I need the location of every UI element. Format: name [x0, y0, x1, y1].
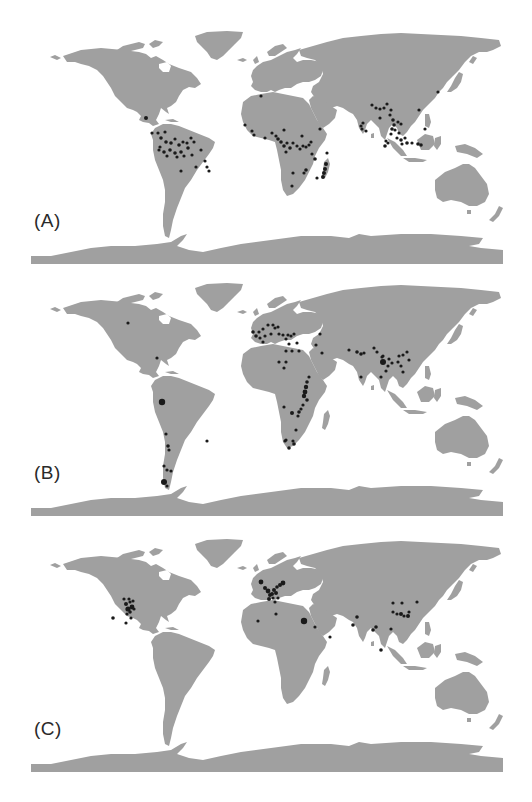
- occurrence-dot: [307, 143, 310, 146]
- occurrence-dot: [266, 589, 271, 594]
- occurrence-dot: [159, 136, 163, 140]
- occurrence-dot: [359, 352, 363, 356]
- occurrence-dot: [305, 398, 309, 402]
- occurrence-dot: [186, 146, 190, 150]
- occurrence-dot: [302, 171, 305, 174]
- occurrence-dot: [279, 140, 283, 144]
- occurrence-dot: [192, 140, 195, 143]
- occurrence-dot: [290, 184, 293, 187]
- occurrence-dot: [294, 428, 297, 431]
- occurrence-dot: [310, 152, 313, 155]
- occurrence-dot: [254, 334, 258, 338]
- occurrence-dot: [284, 349, 287, 352]
- occurrence-dot: [150, 131, 153, 134]
- occurrence-dot: [287, 342, 290, 345]
- occurrence-dot: [124, 621, 127, 624]
- occurrence-dot: [166, 444, 170, 448]
- occurrence-dot: [270, 592, 274, 596]
- occurrence-dot: [190, 153, 193, 156]
- occurrence-dot: [315, 176, 318, 179]
- occurrence-dot: [399, 122, 402, 125]
- occurrence-dot: [281, 333, 284, 336]
- occurrence-dot: [284, 150, 287, 153]
- occurrence-dot: [399, 612, 403, 616]
- occurrence-dot: [129, 616, 132, 619]
- occurrence-dot: [205, 165, 208, 168]
- occurrence-dot: [185, 141, 188, 144]
- occurrence-dot: [162, 150, 166, 154]
- occurrence-dot: [405, 141, 409, 145]
- occurrence-dot: [276, 325, 279, 328]
- occurrence-dot: [399, 138, 403, 142]
- occurrence-dot: [261, 327, 264, 330]
- occurrence-dot: [351, 623, 355, 627]
- occurrence-dot: [359, 124, 362, 127]
- occurrence-dot: [364, 129, 367, 132]
- occurrence-dot: [158, 145, 161, 148]
- occurrence-dot: [164, 432, 167, 435]
- occurrence-dot: [162, 464, 165, 467]
- occurrence-dot: [355, 350, 359, 354]
- occurrence-dot: [298, 147, 301, 150]
- occurrence-dot: [399, 364, 402, 367]
- occurrence-dot: [282, 128, 285, 131]
- occurrence-dot: [259, 94, 262, 97]
- occurrence-dot: [165, 468, 168, 471]
- occurrence-dot: [128, 600, 131, 603]
- occurrence-dot: [321, 175, 325, 179]
- occurrence-dot: [285, 141, 288, 144]
- occurrence-dot: [355, 615, 359, 619]
- occurrence-dot: [390, 127, 394, 131]
- occurrence-dot: [132, 607, 135, 610]
- occurrence-dot: [168, 148, 172, 152]
- occurrence-dot: [379, 648, 383, 652]
- occurrence-dot: [301, 403, 304, 406]
- occurrence-dot: [304, 145, 307, 148]
- occurrence-dot: [284, 337, 287, 340]
- panel-label-b: (B): [34, 463, 61, 482]
- occurrence-dot: [382, 106, 385, 109]
- occurrence-dot: [397, 354, 400, 357]
- occurrence-dot: [261, 340, 264, 343]
- occurrence-dot: [347, 348, 350, 351]
- occurrence-dot: [131, 599, 134, 602]
- occurrence-dot: [127, 597, 130, 600]
- occurrence-dot: [269, 332, 272, 335]
- occurrence-dot: [407, 610, 410, 613]
- world-map-a: [31, 30, 503, 266]
- occurrence-dot: [282, 405, 285, 408]
- occurrence-dot: [359, 375, 362, 378]
- occurrence-dot: [389, 108, 392, 111]
- occurrence-dot: [383, 144, 387, 148]
- occurrence-dot: [328, 635, 331, 638]
- occurrence-dot: [282, 366, 285, 369]
- occurrence-dot: [281, 581, 286, 586]
- occurrence-dot: [165, 484, 168, 487]
- occurrence-dot: [384, 369, 387, 372]
- occurrence-dot: [205, 439, 208, 442]
- occurrence-dot: [304, 385, 308, 389]
- occurrence-dot: [274, 612, 277, 615]
- occurrence-dot: [395, 612, 398, 615]
- occurrence-dot: [318, 332, 321, 335]
- occurrence-dot: [384, 139, 387, 142]
- occurrence-dot: [267, 597, 271, 601]
- occurrence-dot: [292, 332, 295, 335]
- occurrence-dot: [419, 143, 423, 147]
- occurrence-dot: [295, 341, 298, 344]
- occurrence-dot: [263, 334, 266, 337]
- occurrence-dot: [304, 168, 308, 172]
- occurrence-dot: [274, 591, 278, 595]
- occurrence-dot: [389, 132, 392, 135]
- occurrence-dot: [252, 133, 255, 136]
- occurrence-dot: [263, 136, 266, 139]
- map-panel-a: (A): [31, 30, 503, 266]
- occurrence-dot: [407, 358, 410, 361]
- occurrence-dot: [273, 600, 276, 603]
- occurrence-dot: [390, 361, 393, 364]
- occurrence-dot: [391, 118, 395, 122]
- occurrence-dot: [189, 136, 192, 139]
- occurrence-dot: [401, 370, 404, 373]
- occurrence-dot: [288, 146, 292, 150]
- occurrence-dot: [124, 602, 128, 606]
